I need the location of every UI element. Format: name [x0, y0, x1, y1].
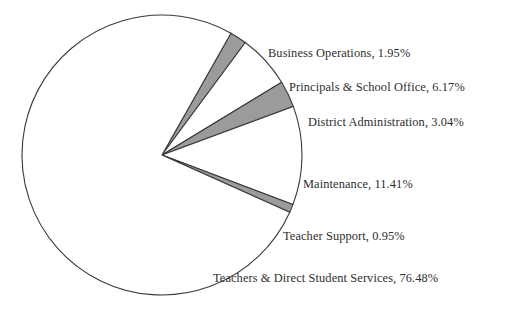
- pie-label-business-operations: Business Operations, 1.95%: [268, 47, 410, 59]
- pie-label-maintenance: Maintenance, 11.41%: [303, 178, 413, 190]
- pie-label-district-administration: District Administration, 3.04%: [308, 116, 464, 128]
- pie-label-principals-school-office: Principals & School Office, 6.17%: [289, 81, 465, 93]
- pie-chart-canvas: [0, 0, 510, 314]
- pie-slice-group: [22, 15, 302, 295]
- pie-label-teachers-direct-student-services: Teachers & Direct Student Services, 76.4…: [213, 272, 438, 284]
- pie-chart: Business Operations, 1.95% Principals & …: [0, 0, 510, 314]
- pie-label-teacher-support: Teacher Support, 0.95%: [283, 230, 405, 242]
